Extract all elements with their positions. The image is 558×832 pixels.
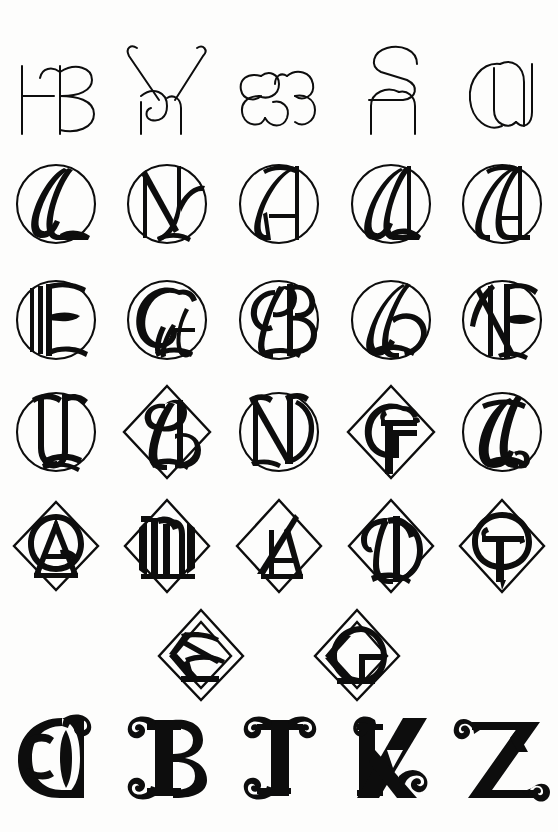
glyph-a-diamond[interactable] (229, 496, 329, 596)
glyph-e-circle[interactable] (6, 268, 106, 372)
glyph-gw-circle[interactable] (117, 268, 217, 372)
glyph-he-ligature[interactable] (8, 38, 104, 138)
glyph-o-bold[interactable] (6, 710, 106, 806)
glyph-gt-diamond[interactable] (341, 380, 441, 484)
glyph-n-circle[interactable] (229, 380, 329, 484)
row-circular-monogram-row-1 (0, 152, 558, 256)
glyph-y-ligature[interactable] (119, 38, 215, 138)
row-diamond-pair-row (0, 606, 558, 704)
glyph-d-diamond[interactable] (341, 496, 441, 596)
glyph-a-circle[interactable] (229, 152, 329, 256)
glyph-l-circle[interactable] (6, 152, 106, 256)
row-open-script-ligature-row (0, 38, 558, 138)
glyph-h-circle[interactable] (341, 268, 441, 372)
glyph-u-circle[interactable] (6, 380, 106, 484)
glyph-ja-circle[interactable] (452, 152, 552, 256)
row-mixed-frame-row-1 (0, 380, 558, 484)
glyph-ee-ligature[interactable] (231, 38, 327, 138)
glyph-cu-ligature[interactable] (454, 38, 550, 138)
row-bold-initial-row (0, 710, 558, 806)
glyph-qa-diamond[interactable] (6, 496, 106, 596)
specimen-sheet (0, 0, 558, 832)
glyph-sn-diamond[interactable] (117, 380, 217, 484)
row-diamond-monogram-row (0, 496, 558, 596)
glyph-g-double-diamond[interactable] (307, 606, 407, 704)
glyph-z-bold[interactable] (452, 710, 552, 806)
glyph-l-circle-2[interactable] (452, 380, 552, 484)
glyph-ny-circle[interactable] (117, 152, 217, 256)
glyph-k-double-diamond[interactable] (151, 606, 251, 704)
glyph-nf-circle[interactable] (452, 268, 552, 372)
glyph-al-circle[interactable] (341, 152, 441, 256)
glyph-b-circle[interactable] (229, 268, 329, 372)
glyph-b-bold[interactable] (117, 710, 217, 806)
glyph-sn-ligature[interactable] (343, 38, 439, 138)
row-circular-monogram-row-2 (0, 268, 558, 372)
glyph-t-bold[interactable] (229, 710, 329, 806)
glyph-m-diamond[interactable] (117, 496, 217, 596)
glyph-k-bold[interactable] (341, 710, 441, 806)
glyph-t-diamond[interactable] (452, 496, 552, 596)
